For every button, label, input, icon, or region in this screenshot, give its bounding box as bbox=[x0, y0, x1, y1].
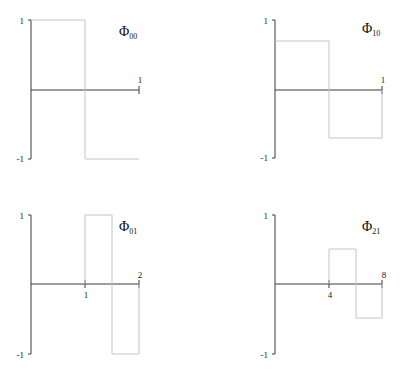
panel-title: Φ21 bbox=[362, 219, 380, 236]
panel-phi-00: 1 -1 1 Φ00 bbox=[17, 16, 143, 164]
panel-title: Φ00 bbox=[119, 24, 137, 41]
panel-phi-21: 1 -1 4 8 Φ21 bbox=[261, 211, 387, 360]
x-label-mid: 4 bbox=[328, 290, 333, 300]
y-label-bottom: -1 bbox=[17, 350, 25, 360]
x-label-end: 2 bbox=[138, 270, 143, 280]
panel-title: Φ10 bbox=[362, 21, 380, 38]
panel-phi-10: 1 -1 1 Φ10 bbox=[261, 16, 386, 163]
x-label-end: 8 bbox=[382, 270, 387, 280]
y-label-bottom: -1 bbox=[17, 154, 25, 164]
haar-wavelet-figure: 1 -1 1 Φ00 1 -1 1 Φ10 1 -1 1 2 Φ01 bbox=[0, 0, 406, 379]
panel-phi-01: 1 -1 1 2 Φ01 bbox=[17, 211, 143, 360]
x-label-end: 1 bbox=[381, 75, 386, 85]
x-label-end: 1 bbox=[138, 75, 143, 85]
y-label-top: 1 bbox=[20, 211, 25, 221]
y-label-top: 1 bbox=[264, 211, 269, 221]
y-label-bottom: -1 bbox=[261, 153, 269, 163]
y-label-top: 1 bbox=[20, 16, 25, 26]
x-label-mid: 1 bbox=[84, 290, 89, 300]
panel-title: Φ01 bbox=[119, 219, 137, 236]
y-label-bottom: -1 bbox=[261, 350, 269, 360]
y-label-top: 1 bbox=[264, 16, 269, 26]
